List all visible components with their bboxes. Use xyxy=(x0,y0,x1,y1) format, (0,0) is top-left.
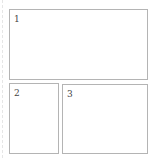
layout-diagram: 1 2 3 xyxy=(0,0,155,158)
panel-label: 3 xyxy=(67,89,73,99)
panel-2: 2 xyxy=(9,83,59,154)
left-edge-dashed-line xyxy=(2,0,3,158)
panel-label: 1 xyxy=(14,14,20,24)
panel-label: 2 xyxy=(14,88,20,98)
panel-3: 3 xyxy=(62,84,148,154)
panel-1: 1 xyxy=(9,9,148,80)
